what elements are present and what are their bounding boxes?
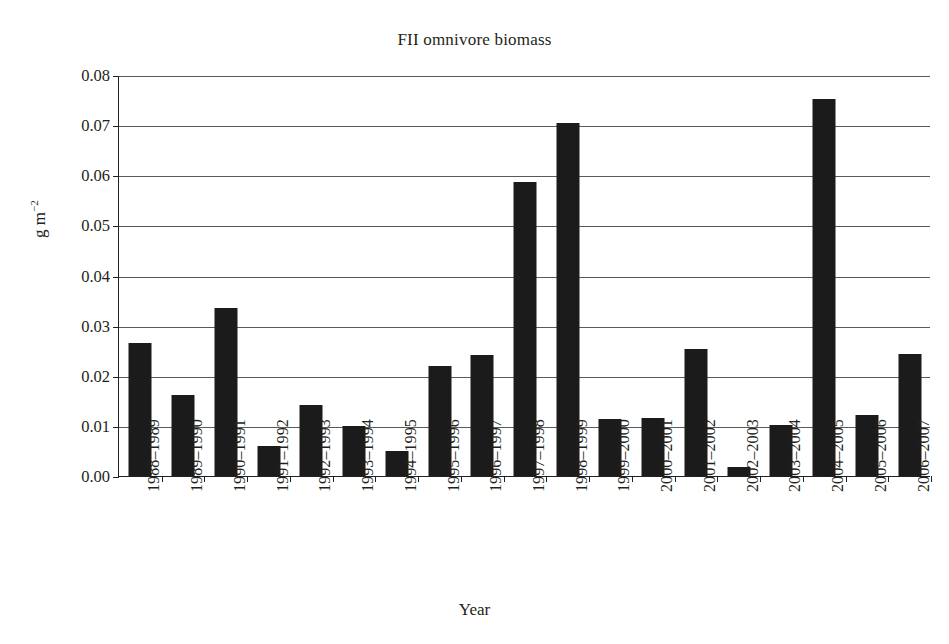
bar-slot	[589, 76, 632, 476]
y-axis-tick-label: 0.01	[81, 417, 110, 437]
chart-title: FII omnivore biomass	[0, 30, 949, 50]
bar-slot	[803, 76, 846, 476]
bar-slot	[675, 76, 718, 476]
bar-slot	[504, 76, 547, 476]
bar-slot	[204, 76, 247, 476]
bar-slot	[119, 76, 162, 476]
x-axis-tick-label: 1989–1990	[188, 419, 206, 492]
y-axis-tick-label: 0.02	[81, 367, 110, 387]
y-axis-tick-label: 0.03	[81, 317, 110, 337]
y-axis-label: g m−2	[28, 200, 50, 238]
bar-slot	[333, 76, 376, 476]
x-axis-label: Year	[0, 600, 949, 620]
x-axis-tick-label: 1992–1993	[316, 419, 334, 492]
bar-slot	[846, 76, 889, 476]
y-axis-tick-label: 0.08	[81, 66, 110, 86]
x-axis-tick-label: 1988–1989	[145, 419, 163, 492]
bar-slot	[290, 76, 333, 476]
bar-slot	[632, 76, 675, 476]
y-axis-tick-label: 0.04	[81, 267, 110, 287]
bar-slot	[162, 76, 205, 476]
x-axis-tick-label: 1991–1992	[274, 419, 292, 492]
bar-slot	[888, 76, 931, 476]
x-axis-tick-label: 1990–1991	[231, 419, 249, 492]
y-axis-label-exponent: −2	[28, 200, 40, 212]
x-axis-tick-label: 2004–2005	[829, 419, 847, 492]
bar-slot	[375, 76, 418, 476]
y-axis-tick-label: 0.00	[81, 467, 110, 487]
x-axis-tick-label: 1994–1995	[402, 419, 420, 492]
x-axis-tick-label: 2001–2002	[701, 419, 719, 492]
bar-slot	[418, 76, 461, 476]
plot-area: 0.080.070.060.050.040.030.020.010.00	[118, 76, 930, 477]
bar-slot	[247, 76, 290, 476]
chart-figure: FII omnivore biomass g m−2 0.080.070.060…	[0, 0, 949, 644]
x-axis-tick-label: 2000–2001	[658, 419, 676, 492]
x-axis-tick-label: 1999–2000	[615, 419, 633, 492]
y-axis-tick-label: 0.05	[81, 216, 110, 236]
x-axis-tick-label: 1997–1998	[530, 419, 548, 492]
bar-slot	[717, 76, 760, 476]
x-axis-tick-label: 2002–2003	[744, 419, 762, 492]
bar-slot	[760, 76, 803, 476]
x-axis-tick-label: 2006–2007	[915, 419, 933, 492]
bar-slot	[546, 76, 589, 476]
x-axis-tick-label: 1998–1999	[573, 419, 591, 492]
x-axis-tick-label: 1996–1997	[487, 419, 505, 492]
y-axis-tick-label: 0.06	[81, 166, 110, 186]
y-axis-label-base: g m	[30, 212, 49, 238]
x-axis-tick-label: 1993–1994	[359, 419, 377, 492]
bar-slot	[461, 76, 504, 476]
x-axis-tick-label: 2003–2004	[786, 419, 804, 492]
x-axis-tick-label: 1995–1996	[445, 419, 463, 492]
x-axis-tick-label: 2005–2006	[872, 419, 890, 492]
y-axis-tick-mark	[113, 477, 119, 478]
y-axis-tick-label: 0.07	[81, 116, 110, 136]
